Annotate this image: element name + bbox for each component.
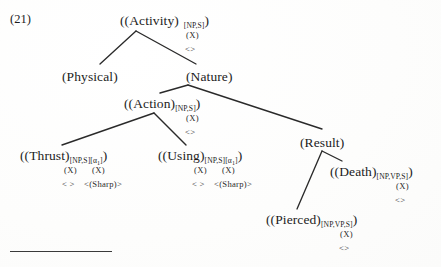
node-action-subscript: [NP,S]: [175, 104, 196, 113]
branch-action-using: [154, 113, 186, 145]
branch-result-death: [322, 151, 342, 161]
node-thrust-feature-angle-empty: < >: [62, 179, 75, 189]
node-using-feature-angle-empty: < >: [192, 179, 205, 189]
branch-result-pierced: [297, 151, 322, 209]
node-activity-tail: ): [205, 13, 210, 28]
node-nature-label: (Nature): [186, 69, 233, 84]
node-result-label: (Result): [300, 135, 344, 150]
node-using-feature-angle-sharp: <(Sharp)>: [214, 179, 252, 189]
node-death-label: ((Death): [330, 164, 377, 179]
node-result: (Result): [300, 134, 344, 150]
node-pierced-feature-angle: <>: [339, 243, 350, 253]
branch-nature-result: [188, 85, 322, 129]
node-death-subscript: [NP,VP,S]: [377, 172, 409, 181]
node-pierced: ((Pierced)[NP,VP,S]): [266, 211, 357, 227]
node-using-tail: ): [238, 148, 243, 163]
node-pierced-feature-x: (X): [340, 229, 353, 239]
node-using-feature-x2: (X): [222, 165, 235, 175]
branch-activity-physical: [100, 31, 136, 64]
branch-nature-action: [160, 85, 188, 93]
node-using-feature-x1: (X): [194, 165, 207, 175]
node-using-label: ((Using): [158, 148, 205, 163]
node-pierced-label: ((Pierced): [266, 212, 321, 227]
node-thrust-feature-x2: (X): [92, 165, 105, 175]
node-death: ((Death)[NP,VP,S]): [330, 163, 413, 179]
node-physical-label: (Physical): [62, 69, 118, 84]
footnote-rule: [10, 251, 112, 252]
node-thrust-label: ((Thrust): [20, 148, 70, 163]
node-action-tail: ): [196, 96, 201, 111]
node-thrust-feature-x1: (X): [64, 165, 77, 175]
node-thrust: ((Thrust)[NP,S][α1]): [20, 147, 107, 163]
node-action-feature-angle: <>: [185, 127, 196, 137]
node-thrust-subscript: [NP,S][α1]: [70, 156, 103, 165]
node-thrust-feature-angle-sharp: <(Sharp)>: [84, 179, 122, 189]
node-using-subscript: [NP,S][α1]: [205, 156, 238, 165]
node-physical: (Physical): [62, 68, 118, 84]
node-action-feature-x: (X): [186, 113, 199, 123]
node-nature: (Nature): [186, 68, 233, 84]
node-using: ((Using)[NP,S][α1]): [158, 147, 242, 163]
node-action-label: ((Action): [124, 96, 175, 111]
node-thrust-tail: ): [103, 148, 108, 163]
node-activity: ((Activity)[NP,S]): [120, 12, 209, 28]
tree-branches: [0, 0, 441, 267]
node-pierced-tail: ): [353, 212, 358, 227]
node-action: ((Action)[NP,S]): [124, 95, 200, 111]
node-pierced-subscript: [NP,VP,S]: [321, 220, 353, 229]
node-activity-subscript: [NP,S]: [184, 21, 205, 30]
node-death-tail: ): [408, 164, 413, 179]
node-activity-feature-angle: <>: [185, 44, 196, 54]
node-activity-feature-x: (X): [186, 30, 199, 40]
node-activity-label: ((Activity): [120, 13, 179, 28]
node-death-feature-x: (X): [396, 181, 409, 191]
branch-action-thrust: [62, 113, 154, 145]
node-death-feature-angle: <>: [395, 195, 406, 205]
